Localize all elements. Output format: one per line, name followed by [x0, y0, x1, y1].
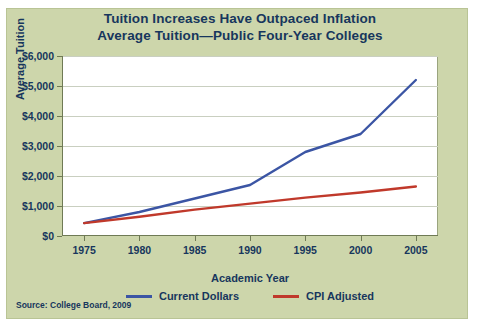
x-tick-label: 2000 [349, 244, 372, 256]
y-tick-label: $1,000 [22, 200, 54, 212]
series-lines [62, 56, 438, 236]
x-tick-label: 1975 [72, 244, 95, 256]
series-line [84, 187, 416, 224]
x-axis-title: Academic Year [62, 272, 438, 284]
legend-swatch [126, 295, 152, 298]
chart-figure: Tuition Increases Have Outpaced Inflatio… [0, 0, 480, 333]
y-tick-label: $0 [42, 230, 54, 242]
x-tick [305, 236, 306, 241]
x-tick-label: 1990 [238, 244, 261, 256]
x-tick-label: 1985 [183, 244, 206, 256]
x-tick-label: 1980 [128, 244, 151, 256]
y-tick [57, 236, 62, 237]
x-tick [195, 236, 196, 241]
legend-swatch [273, 295, 299, 298]
x-tick [139, 236, 140, 241]
x-tick [84, 236, 85, 241]
x-tick-label: 1995 [294, 244, 317, 256]
x-tick [416, 236, 417, 241]
legend-item: CPI Adjusted [273, 290, 374, 302]
chart-title: Tuition Increases Have Outpaced Inflatio… [0, 10, 480, 44]
chart-title-line-2: Average Tuition—Public Four-Year College… [0, 27, 480, 44]
series-line [84, 80, 416, 223]
plot-area: $0$1,000$2,000$3,000$4,000$5,000$6,000 1… [62, 56, 438, 236]
legend-label: Current Dollars [159, 290, 239, 302]
chart-title-line-1: Tuition Increases Have Outpaced Inflatio… [0, 10, 480, 27]
legend-item: Current Dollars [126, 290, 239, 302]
x-tick [250, 236, 251, 241]
y-tick-label: $5,000 [22, 80, 54, 92]
legend-label: CPI Adjusted [306, 290, 374, 302]
y-tick-label: $6,000 [22, 50, 54, 62]
source-note: Source: College Board, 2009 [16, 300, 131, 310]
y-tick-label: $3,000 [22, 140, 54, 152]
y-tick-label: $4,000 [22, 110, 54, 122]
x-tick [361, 236, 362, 241]
y-tick-label: $2,000 [22, 170, 54, 182]
x-tick-label: 2005 [404, 244, 427, 256]
